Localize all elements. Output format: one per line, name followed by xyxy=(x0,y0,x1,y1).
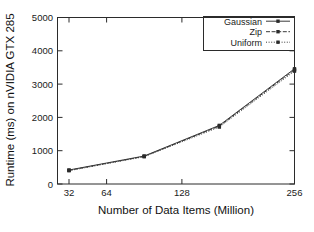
data-point-uniform-32 xyxy=(67,169,70,172)
series-line-zip xyxy=(69,70,295,171)
x-axis-title: Number of Data Items (Million) xyxy=(98,204,254,216)
legend-label-uniform: Uniform xyxy=(230,38,262,48)
x-tick-labels: 32 64 128 256 xyxy=(64,187,303,198)
legend-marker-gaussian xyxy=(276,20,279,23)
y-tick-label-2000: 2000 xyxy=(32,112,53,123)
y-tick-label-0: 0 xyxy=(48,179,53,190)
series-line-gaussian xyxy=(69,69,295,170)
x-tick-label-128: 128 xyxy=(174,187,190,198)
legend-marker-uniform xyxy=(276,41,279,44)
series-line-uniform xyxy=(69,71,295,171)
data-point-uniform-256 xyxy=(293,69,296,72)
y-tick-label-5000: 5000 xyxy=(32,12,53,23)
series-uniform xyxy=(67,69,296,172)
y-tick-label-3000: 3000 xyxy=(32,79,53,90)
x-tick-label-256: 256 xyxy=(287,187,303,198)
y-axis-title: Runtime (ms) on nVIDIA GTX 285 xyxy=(4,13,16,186)
data-point-uniform-128 xyxy=(218,125,221,128)
chart-figure: 5000 4000 3000 2000 1000 0 32 64 128 256… xyxy=(0,0,314,232)
data-point-uniform-64 xyxy=(142,155,145,158)
legend: Gaussian Zip Uniform xyxy=(204,17,295,51)
data-series-layer xyxy=(67,67,296,172)
x-tick-label-64: 64 xyxy=(101,187,112,198)
series-zip xyxy=(67,68,296,172)
line-chart: 5000 4000 3000 2000 1000 0 32 64 128 256… xyxy=(0,0,314,232)
legend-label-zip: Zip xyxy=(249,27,262,37)
series-gaussian xyxy=(67,67,296,172)
x-tick-label-32: 32 xyxy=(64,187,75,198)
legend-marker-zip xyxy=(276,30,279,33)
y-tick-label-4000: 4000 xyxy=(32,45,53,56)
legend-label-gaussian: Gaussian xyxy=(224,17,262,27)
y-tick-label-1000: 1000 xyxy=(32,145,53,156)
y-tick-labels: 5000 4000 3000 2000 1000 0 xyxy=(32,12,53,190)
